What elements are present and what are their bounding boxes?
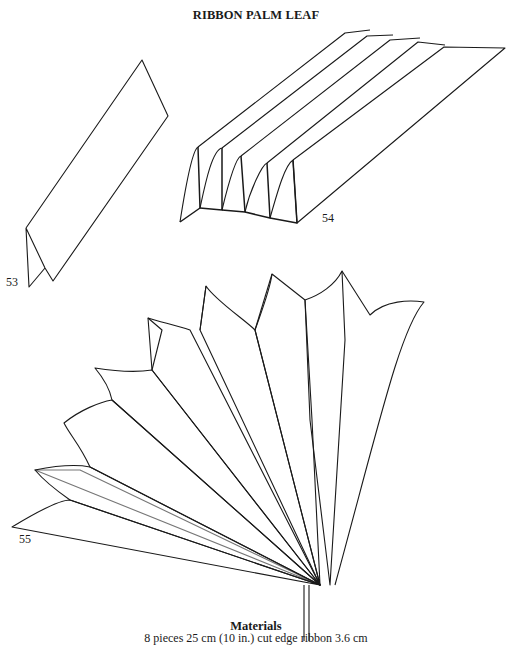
figure-53-label: 53 <box>6 275 18 290</box>
figure-55-label: 55 <box>19 532 31 547</box>
figure-54-label: 54 <box>322 211 334 226</box>
figure-55-drawing <box>12 271 424 641</box>
figure-53-drawing <box>26 60 168 287</box>
figure-54-drawing <box>180 30 505 223</box>
materials-line: 8 pieces 25 cm (10 in.) cut edge ribbon … <box>0 631 512 646</box>
